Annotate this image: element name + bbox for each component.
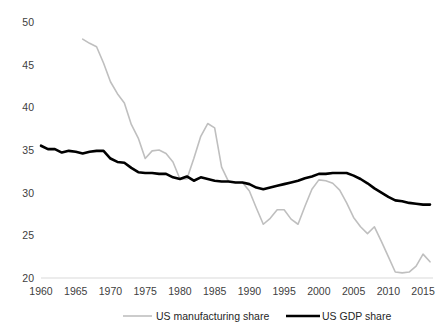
y-axis-tick-label: 50 [22, 16, 34, 28]
series-line-2 [41, 146, 430, 205]
x-axis-tick-label: 2000 [307, 285, 331, 297]
x-axis-tick-label: 2010 [377, 285, 401, 297]
x-axis-tick-label: 1960 [29, 285, 53, 297]
x-axis-tick-label: 1965 [64, 285, 88, 297]
legend-label-1: US manufacturing share [156, 310, 269, 322]
x-axis-tick-label: 1990 [238, 285, 262, 297]
series-line-1 [83, 39, 430, 273]
y-axis-tick-label: 45 [22, 59, 34, 71]
x-axis-tick-label: 1985 [203, 285, 227, 297]
y-axis-tick-label: 35 [22, 144, 34, 156]
line-chart: 2025303540455019601965197019751980198519… [0, 0, 447, 336]
x-axis-tick-label: 1975 [134, 285, 158, 297]
x-axis-tick-label: 1995 [272, 285, 296, 297]
x-axis-tick-label: 1980 [168, 285, 192, 297]
x-axis-tick-label: 1970 [99, 285, 123, 297]
x-axis-tick-label: 2005 [342, 285, 366, 297]
x-axis-tick-label: 2015 [411, 285, 435, 297]
chart-canvas: 2025303540455019601965197019751980198519… [0, 0, 447, 336]
y-axis-tick-label: 40 [22, 101, 34, 113]
y-axis-tick-label: 25 [22, 229, 34, 241]
y-axis-tick-label: 30 [22, 187, 34, 199]
y-axis-tick-label: 20 [22, 272, 34, 284]
legend-label-2: US GDP share [322, 310, 391, 322]
